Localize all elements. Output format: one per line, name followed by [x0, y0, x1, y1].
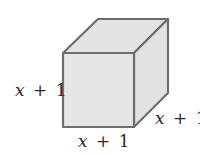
width-label: x + 1	[78, 131, 129, 151]
height-label: x + 1	[15, 80, 66, 100]
cube-front-face	[63, 53, 134, 127]
cube-diagram: x + 1 x + 1 x + 1	[0, 0, 200, 157]
depth-label: x + 1	[155, 108, 200, 128]
